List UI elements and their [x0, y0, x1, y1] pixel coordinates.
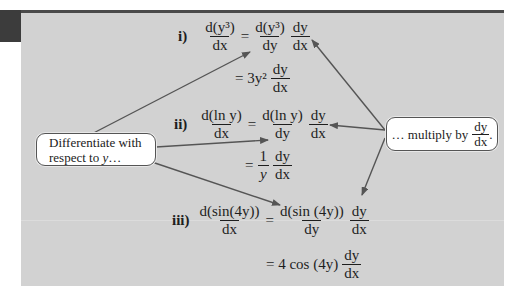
- arrow-to-eq-i: [80, 52, 250, 140]
- dy-dx-fraction: dydx: [472, 120, 489, 149]
- callout-multiply: … multiply by dydx .: [386, 117, 498, 151]
- callout-line-1: Differentiate with: [49, 135, 155, 150]
- right-arrows: [312, 40, 385, 195]
- left-arrows: [80, 52, 280, 205]
- callout-period: .: [489, 127, 492, 142]
- callout-differentiate: Differentiate with respect to y…: [36, 133, 156, 166]
- callout-text: … multiply by: [392, 127, 469, 142]
- arrow-to-eq-iii-dydx: [362, 138, 385, 195]
- arrow-to-eq-ii: [140, 140, 268, 148]
- callout-line-2: respect to y…: [49, 150, 155, 165]
- arrow-to-eq-i-dydx: [312, 40, 385, 130]
- arrow-to-eq-ii-dydx: [330, 125, 385, 130]
- arrow-to-eq-iii: [140, 158, 280, 205]
